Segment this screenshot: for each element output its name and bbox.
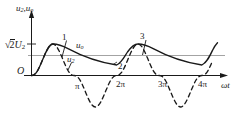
origin-label: O — [17, 66, 24, 76]
x-axis-arrow — [220, 73, 228, 78]
y-axis-label: u2,uo — [16, 4, 33, 13]
leader-line-marker-1 — [62, 41, 67, 58]
curve-label-uo: uo — [76, 41, 84, 50]
x-axis-label: ωt — [221, 81, 230, 90]
marker-point-1: 1 — [62, 33, 67, 42]
x-tick-label-3pi: 3π — [158, 80, 167, 89]
x-tick-label-pi: π — [75, 82, 80, 91]
peak-voltage-label: √2U2 — [5, 39, 25, 51]
curve-label-u2: u2 — [67, 55, 75, 64]
curve-uo-solid — [32, 43, 218, 76]
curve-label-u2-subscript: 2 — [72, 58, 75, 64]
marker-point-3: 3 — [140, 32, 145, 41]
voltage-symbol: U — [15, 39, 22, 50]
x-tick-label-2pi: 2π — [116, 80, 125, 89]
curve-label-uo-subscript: o — [81, 44, 84, 50]
x-tick-label-4pi: 4π — [198, 80, 207, 89]
y-axis-label-uo-subscript: o — [30, 7, 33, 13]
waveform-figure: u2,uo √2U2 O ωt 1 2 3 uo u2 π 2π 3π 4π — [0, 0, 243, 133]
voltage-subscript: 2 — [22, 43, 25, 50]
marker-point-2: 2 — [118, 62, 123, 71]
